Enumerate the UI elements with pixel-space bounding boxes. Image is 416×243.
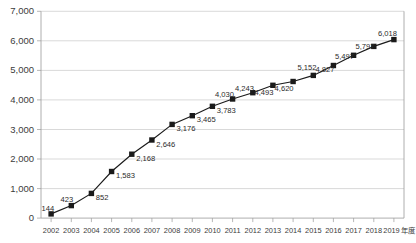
x-axis-ticks — [51, 218, 394, 222]
data-point-label: 1,583 — [116, 171, 135, 180]
data-point-label: 4,243 — [235, 84, 254, 93]
data-point-labels: 144 423 852 1,583 2,168 2,646 3,176 3,46… — [42, 29, 398, 214]
x-tick-label: 2003 — [63, 226, 79, 235]
x-tick-label: 2010 — [204, 226, 220, 235]
data-point-label: 4,620 — [275, 84, 294, 93]
data-point-label: 3,783 — [217, 106, 236, 115]
data-point-label: 144 — [42, 204, 55, 213]
data-point-marker — [169, 122, 174, 127]
y-tick-label: 4,000 — [10, 94, 34, 105]
y-tick-label: 7,000 — [10, 5, 34, 16]
data-point-marker — [149, 137, 154, 142]
data-point-label: 4,030 — [215, 90, 234, 99]
line-chart: 7,000 6,000 5,000 4,000 3,000 2,000 1,00… — [0, 0, 416, 243]
x-tick-label: 2013 — [265, 226, 281, 235]
x-tick-label: 2008 — [164, 226, 180, 235]
x-tick-label: 2006 — [124, 226, 140, 235]
data-point-label: 5,797 — [356, 42, 375, 51]
series-markers — [48, 37, 396, 217]
data-point-marker — [311, 73, 316, 78]
x-tick-label: 2007 — [144, 226, 160, 235]
x-tick-label: 2012 — [245, 226, 261, 235]
data-point-label: 4,827 — [316, 65, 335, 74]
data-point-label: 5,497 — [335, 52, 354, 61]
y-axis-gridlines — [41, 11, 404, 188]
x-tick-label: 2018 — [366, 226, 382, 235]
data-point-marker — [190, 113, 195, 118]
x-tick-label: 2011 — [225, 226, 241, 235]
data-point-label: 3,465 — [197, 115, 216, 124]
y-tick-label: 0 — [29, 212, 34, 223]
y-axis-tick-labels: 7,000 6,000 5,000 4,000 3,000 2,000 1,00… — [10, 5, 34, 223]
y-tick-label: 1,000 — [10, 183, 34, 194]
x-axis-tick-labels: 2002 2003 2004 2005 2006 2007 2008 2009 … — [43, 226, 416, 235]
x-tick-label: 2004 — [83, 226, 99, 235]
data-point-marker — [391, 37, 396, 42]
data-point-marker — [129, 152, 134, 157]
data-point-label: 5,152 — [298, 63, 317, 72]
x-tick-label: 2015 — [305, 226, 321, 235]
data-point-label: 852 — [96, 193, 109, 202]
data-point-label: 2,168 — [136, 154, 155, 163]
data-point-marker — [210, 104, 215, 109]
data-point-marker — [89, 191, 94, 196]
y-axis-ticks — [37, 11, 41, 218]
series-line-path — [51, 40, 394, 214]
y-tick-label: 6,000 — [10, 35, 34, 46]
data-point-marker — [109, 169, 114, 174]
x-tick-label: 2014 — [285, 226, 301, 235]
y-tick-label: 5,000 — [10, 64, 34, 75]
data-point-label: 4,493 — [255, 88, 274, 97]
data-point-label: 2,646 — [156, 140, 175, 149]
y-tick-label: 2,000 — [10, 153, 34, 164]
x-tick-label: 2005 — [103, 226, 119, 235]
x-axis-unit-label: 年度 — [401, 226, 416, 235]
data-point-label: 423 — [61, 195, 74, 204]
y-tick-label: 3,000 — [10, 124, 34, 135]
x-tick-label: 2019 — [383, 226, 399, 235]
chart-container: 7,000 6,000 5,000 4,000 3,000 2,000 1,00… — [0, 0, 416, 243]
data-point-label: 6,018 — [378, 29, 397, 38]
x-tick-label: 2009 — [184, 226, 200, 235]
x-tick-label: 2017 — [345, 226, 361, 235]
x-tick-label: 2016 — [325, 226, 341, 235]
data-point-label: 3,176 — [177, 124, 196, 133]
x-tick-label: 2002 — [43, 226, 59, 235]
